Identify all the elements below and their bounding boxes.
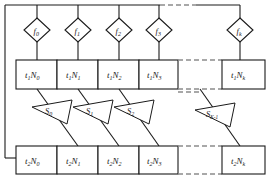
row1-node-boxes: t1N0 t1N1 t1N2 t1N3 t1Nk (16, 60, 265, 89)
network-diagram-svg: f0 f1 f2 f3 fk t1N0 t1N1 t1N2 t1N3 t1 (0, 0, 271, 180)
row2-node-boxes: t2N0 t2N1 t2N2 t2N3 t2Nk (16, 146, 265, 174)
decision-diamonds: f0 f1 f2 f3 fk (24, 18, 253, 42)
selector-triangles: S0 S1 S2 SK-1 (32, 100, 235, 127)
left-feedback-bus (5, 5, 16, 158)
diagram-canvas: f0 f1 f2 f3 fk t1N0 t1N1 t1N2 t1N3 t1 (0, 0, 271, 180)
